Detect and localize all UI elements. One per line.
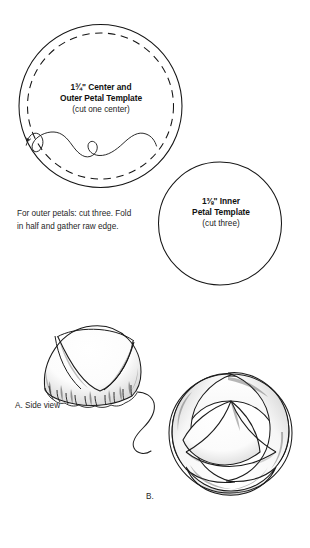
inner-template-line1: 1⅜" Inner bbox=[170, 196, 272, 207]
inner-template-line3: (cut three) bbox=[170, 219, 272, 230]
outer-template-line1: 1¾" Center and bbox=[36, 82, 166, 93]
outer-petal-instructions: For outer petals: cut three. Fold in hal… bbox=[17, 207, 135, 234]
figure-b-caption: B. bbox=[146, 492, 154, 501]
inner-template-label: 1⅜" Inner Petal Template (cut three) bbox=[170, 196, 272, 230]
figure-a-caption: A. Side view bbox=[15, 401, 60, 410]
gathering-thread-squiggle bbox=[26, 132, 157, 157]
figure-b-top-view bbox=[169, 373, 292, 496]
outer-template-label: 1¾" Center and Outer Petal Template (cut… bbox=[36, 82, 166, 116]
outer-template-line3: (cut one center) bbox=[36, 105, 166, 116]
figure-a-side-view bbox=[44, 326, 154, 454]
diagram-page: 1¾" Center and Outer Petal Template (cut… bbox=[0, 0, 310, 548]
inner-template-line2: Petal Template bbox=[170, 207, 272, 218]
outer-template-line2: Outer Petal Template bbox=[36, 93, 166, 104]
